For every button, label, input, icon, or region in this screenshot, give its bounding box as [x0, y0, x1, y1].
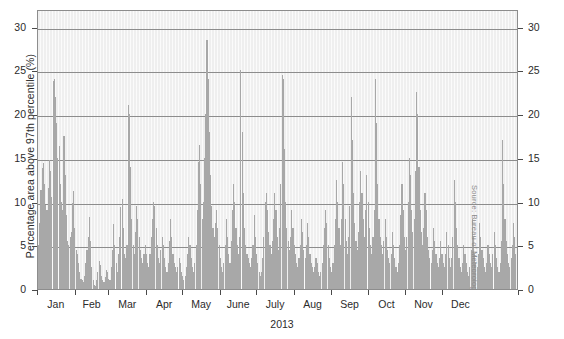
y-tick-label-left-5: 5 — [20, 240, 26, 251]
chart-figure: Percentage area above 97th percentile (%… — [0, 0, 564, 339]
x-tick-Apr — [146, 290, 147, 295]
y-tick-label-left-10: 10 — [14, 197, 26, 208]
y-tick-label-left-25: 25 — [14, 65, 26, 76]
x-axis-title: 2013 — [0, 318, 564, 330]
y-tick-label-right-0: 0 — [528, 284, 534, 295]
x-tick-Sep — [331, 290, 332, 295]
bar-series — [38, 11, 517, 289]
y-tick-right-5 — [518, 246, 523, 247]
y-tick-right-10 — [518, 203, 523, 204]
y-tick-label-right-25: 25 — [528, 65, 540, 76]
x-tick-Feb — [75, 290, 76, 295]
y-tick-label-right-10: 10 — [528, 197, 540, 208]
x-tick-end — [518, 290, 519, 295]
x-tick-Aug — [294, 290, 295, 295]
y-tick-label-left-15: 15 — [14, 153, 26, 164]
y-tick-left-30 — [32, 28, 37, 29]
plot-area — [37, 10, 518, 290]
x-tick-July — [256, 290, 257, 295]
x-tick-Oct — [368, 290, 369, 295]
x-tick-May — [182, 290, 183, 295]
y-tick-label-left-0: 0 — [20, 284, 26, 295]
y-tick-label-right-15: 15 — [528, 153, 540, 164]
y-tick-right-20 — [518, 115, 523, 116]
y-tick-label-right-30: 30 — [528, 22, 540, 33]
y-tick-left-10 — [32, 203, 37, 204]
y-tick-right-25 — [518, 71, 523, 72]
y-tick-left-25 — [32, 71, 37, 72]
y-tick-right-15 — [518, 159, 523, 160]
y-tick-left-15 — [32, 159, 37, 160]
y-tick-left-20 — [32, 115, 37, 116]
y-tick-label-right-5: 5 — [528, 240, 534, 251]
y-tick-label-right-20: 20 — [528, 109, 540, 120]
x-tick-Nov — [405, 290, 406, 295]
y-tick-label-left-20: 20 — [14, 109, 26, 120]
x-tick-Dec — [442, 290, 443, 295]
source-credit: Source: Bureau of Meteorolog — [470, 185, 479, 335]
x-tick-June — [220, 290, 221, 295]
y-tick-label-left-30: 30 — [14, 22, 26, 33]
x-tick-label-Dec: Dec — [430, 299, 490, 310]
bar — [517, 263, 518, 289]
x-tick-Mar — [108, 290, 109, 295]
y-tick-left-5 — [32, 246, 37, 247]
y-tick-right-30 — [518, 28, 523, 29]
x-tick-Jan — [37, 290, 38, 295]
